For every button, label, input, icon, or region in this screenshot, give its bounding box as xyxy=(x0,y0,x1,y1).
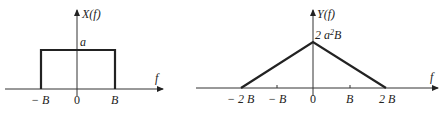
y-axis-label-right: Y(f) xyxy=(317,7,335,21)
x-spectrum-panel: X(f) a f − B 0 B xyxy=(5,7,163,107)
tick-label-neg-2b: − 2 B xyxy=(227,92,255,106)
tick-label-b-right: B xyxy=(346,92,354,106)
y-axis-label-left: X(f) xyxy=(81,7,101,21)
tick-label-zero-left: 0 xyxy=(74,93,80,107)
amplitude-label: a xyxy=(80,35,86,49)
x-axis-label-left: f xyxy=(155,71,160,85)
tick-label-neg-b: − B xyxy=(31,93,50,107)
spectra-diagram: X(f) a f − B 0 B Y(f) 2 a2B f − 2 B − B … xyxy=(0,0,442,114)
x-axis-label-right: f xyxy=(430,70,435,84)
peak-label: 2 a2B xyxy=(315,28,342,42)
tick-label-2b: 2 B xyxy=(379,92,396,106)
tick-label-neg-b-right: − B xyxy=(268,92,287,106)
tick-label-b: B xyxy=(111,93,119,107)
rect-spectrum xyxy=(41,50,115,89)
y-spectrum-panel: Y(f) 2 a2B f − 2 B − B 0 B 2 B xyxy=(196,7,438,106)
tick-label-zero-right: 0 xyxy=(310,92,316,106)
